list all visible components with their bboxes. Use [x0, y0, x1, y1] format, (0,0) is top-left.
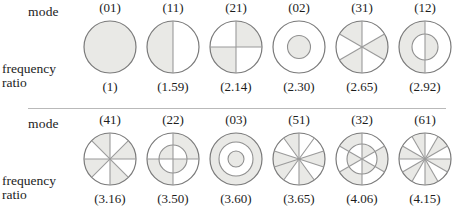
mode-diagram-21 — [208, 19, 264, 75]
mode-diagram-41 — [82, 131, 138, 187]
membrane-modes-figure: mode frequency ratio (01) (1) (11) — [0, 0, 458, 221]
row-label-mode-bottom: mode — [28, 116, 59, 132]
mode-label-11: (11) — [140, 0, 206, 16]
ratio-label-02: (2.30) — [266, 79, 332, 95]
row-label-frequency-ratio-bottom: frequency ratio — [2, 174, 56, 202]
mode-label-03: (03) — [203, 112, 269, 128]
mode-label-41: (41) — [77, 112, 143, 128]
mode-diagram-12 — [397, 19, 453, 75]
ratio-label-12: (2.92) — [392, 79, 458, 95]
mode-diagram-01 — [82, 19, 138, 75]
ratio-label-51: (3.65) — [266, 191, 332, 207]
ratio-label-01: (1) — [77, 79, 143, 95]
mode-diagram-02 — [271, 19, 327, 75]
mode-row-bottom: mode frequency ratio (41) — [0, 110, 458, 221]
mode-label-12: (12) — [392, 0, 458, 16]
ratio-label-41: (3.16) — [77, 191, 143, 207]
frequency-label-line2-bottom: ratio — [2, 188, 56, 202]
ratio-label-61: (4.15) — [392, 191, 458, 207]
mode-label-01: (01) — [77, 0, 143, 16]
mode-diagram-03 — [208, 131, 264, 187]
mode-label-02: (02) — [266, 0, 332, 16]
mode-label-32: (32) — [329, 112, 395, 128]
ratio-label-03: (3.60) — [203, 191, 269, 207]
ratio-label-11: (1.59) — [140, 79, 206, 95]
mode-diagram-31 — [334, 19, 390, 75]
mode-diagram-32 — [334, 131, 390, 187]
ratio-label-32: (4.06) — [329, 191, 395, 207]
frequency-label-line1: frequency — [2, 62, 56, 76]
mode-diagram-11 — [145, 19, 201, 75]
ratio-label-22: (3.50) — [140, 191, 206, 207]
mode-label-31: (31) — [329, 0, 395, 16]
row-label-mode-top: mode — [28, 4, 59, 20]
mode-label-61: (61) — [392, 112, 458, 128]
row-label-frequency-ratio-top: frequency ratio — [2, 62, 56, 90]
mode-label-51: (51) — [266, 112, 332, 128]
ratio-label-21: (2.14) — [203, 79, 269, 95]
frequency-label-line1-bottom: frequency — [2, 174, 56, 188]
mode-label-21: (21) — [203, 0, 269, 16]
ratio-label-31: (2.65) — [329, 79, 395, 95]
frequency-label-line2: ratio — [2, 76, 56, 90]
mode-label-22: (22) — [140, 112, 206, 128]
mode-diagram-22 — [145, 131, 201, 187]
mode-row-top: mode frequency ratio (01) (1) (11) — [0, 0, 458, 108]
mode-diagram-51 — [271, 131, 327, 187]
row-divider — [28, 108, 446, 109]
mode-diagram-61 — [397, 131, 453, 187]
